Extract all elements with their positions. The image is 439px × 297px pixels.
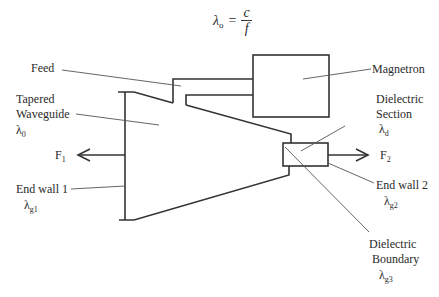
equation-numerator: c [241,6,251,21]
label-dielectric-section-lambda: λd [379,122,389,141]
label-end-wall-2: End wall 2 [376,178,428,192]
magnetron-leader [303,69,371,79]
equation-fraction: c f [241,6,251,36]
end-wall-2-leader [328,163,374,183]
dielectric-section-leader [301,126,345,151]
label-end-wall-2-lambda: λg2 [384,194,398,213]
waveguide-lower-taper [119,166,289,220]
label-dielectric-section-1: Dielectric [376,92,423,106]
equation-lhs: λo [213,13,224,30]
dielectric-section-box [283,143,328,166]
equation-denominator: f [245,21,249,36]
waveguide-top-left-wall [118,92,173,103]
label-dielectric-boundary-2: Boundary [372,252,419,266]
label-f1: F1 [55,148,66,167]
label-end-wall-1: End wall 1 [16,182,68,196]
tapered-waveguide-leader [76,114,159,125]
label-dielectric-boundary-lambda: λg3 [379,268,393,287]
feed-inner-wall [186,95,253,105]
feed-outer-wall [173,79,253,103]
equation-equals: = [229,13,237,29]
label-waveguide-lambda: λ0 [16,123,26,142]
wavelength-equation: λo = c f [213,6,252,36]
waveguide-upper-taper [186,105,291,143]
label-tapered: Tapered [16,92,54,106]
label-dielectric-section-2: Section [376,107,412,121]
label-dielectric-boundary-1: Dielectric [369,237,416,251]
feed-leader [62,70,181,86]
label-feed: Feed [31,61,54,75]
end-wall-1-leader [71,186,125,189]
label-end-wall-1-lambda: λg1 [24,198,38,217]
label-magnetron: Magnetron [372,62,425,76]
label-f2: F2 [380,148,391,167]
label-waveguide: Waveguide [16,107,70,121]
magnetron-box [253,55,329,117]
dielectric-boundary-leader [285,147,369,232]
